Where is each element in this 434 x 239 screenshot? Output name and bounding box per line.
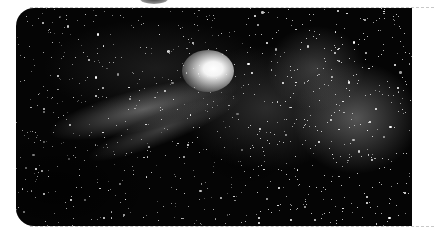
star [319, 88, 320, 89]
star [244, 171, 245, 172]
star [197, 25, 198, 26]
star [389, 203, 390, 204]
star [73, 155, 74, 156]
star [184, 163, 185, 164]
star [323, 199, 324, 200]
star [349, 96, 350, 97]
star [335, 47, 336, 48]
star [271, 69, 273, 71]
star [400, 28, 401, 29]
star [358, 44, 359, 45]
star [343, 112, 345, 114]
star [275, 54, 276, 55]
star [307, 120, 308, 121]
star [332, 154, 333, 155]
star [89, 135, 90, 136]
star [214, 162, 215, 163]
star [171, 187, 172, 188]
star [162, 109, 163, 110]
star [295, 176, 296, 177]
star [178, 25, 179, 26]
star [313, 36, 314, 37]
star [346, 88, 347, 89]
star [308, 80, 309, 81]
star [53, 112, 54, 113]
star [79, 83, 80, 84]
star [363, 33, 364, 34]
star [95, 95, 97, 97]
star [77, 20, 78, 21]
star [147, 143, 148, 144]
star [143, 23, 144, 24]
star [257, 24, 259, 26]
star [98, 60, 99, 61]
star [264, 101, 265, 102]
star [102, 132, 104, 134]
star [48, 170, 49, 171]
star [223, 121, 224, 122]
star [387, 81, 388, 82]
star [259, 84, 260, 85]
star [147, 156, 149, 158]
star [227, 214, 229, 216]
star [383, 44, 384, 45]
star [288, 9, 289, 10]
star [48, 176, 49, 177]
star [97, 33, 100, 36]
star [175, 203, 176, 204]
star [198, 92, 199, 93]
star [354, 125, 355, 126]
star [277, 17, 278, 18]
star [211, 27, 212, 28]
star [29, 46, 30, 47]
star [188, 206, 189, 207]
star [297, 179, 298, 180]
star [290, 70, 291, 71]
star [136, 105, 137, 106]
star [102, 96, 103, 97]
star [28, 138, 29, 139]
star [141, 24, 142, 25]
star [127, 129, 128, 130]
star [356, 74, 357, 75]
star [70, 199, 72, 201]
star [241, 222, 242, 223]
top-edge-artifact [140, 0, 168, 4]
star [104, 11, 105, 12]
star [36, 179, 37, 180]
star [145, 124, 147, 126]
star [31, 71, 32, 72]
star [63, 142, 64, 143]
star [163, 206, 164, 207]
star [254, 94, 255, 95]
star [286, 18, 287, 19]
star [271, 212, 272, 213]
star [24, 57, 25, 58]
star [93, 21, 94, 22]
star [411, 56, 412, 57]
star [122, 180, 123, 181]
star [247, 52, 248, 53]
star [409, 176, 410, 177]
star [271, 61, 272, 62]
star [367, 36, 368, 37]
star [27, 21, 28, 22]
star [324, 9, 326, 11]
star [43, 86, 44, 87]
star [85, 101, 86, 102]
star [347, 162, 348, 163]
star [297, 169, 299, 171]
star [309, 30, 310, 31]
star [41, 170, 43, 172]
star [371, 159, 373, 161]
star [54, 213, 55, 214]
star [272, 38, 273, 39]
star [310, 148, 311, 149]
star [372, 136, 373, 137]
star [397, 87, 399, 89]
star [216, 48, 217, 49]
star [180, 28, 181, 29]
star [409, 63, 411, 65]
star [180, 77, 181, 78]
star [225, 223, 226, 224]
